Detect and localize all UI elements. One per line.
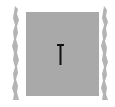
- i-beam-cursor-icon: [57, 44, 64, 65]
- torn-edge-right-icon: [101, 6, 111, 100]
- torn-edge-left-icon: [11, 6, 21, 100]
